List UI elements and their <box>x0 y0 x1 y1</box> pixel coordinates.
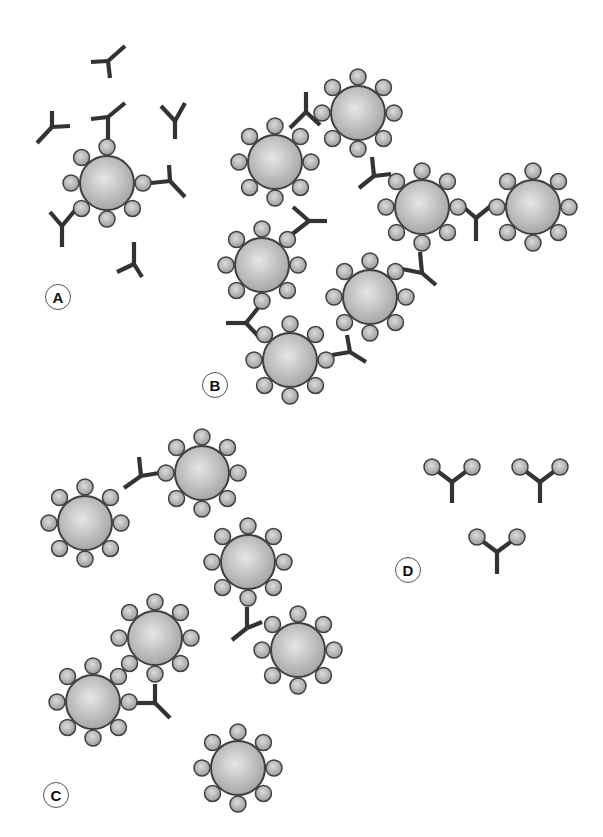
panel-label-b: B <box>202 372 228 398</box>
antigen-icon <box>254 642 270 658</box>
antigen-icon <box>326 642 342 658</box>
antigen-icon <box>265 579 281 595</box>
antigen-icon <box>183 630 199 646</box>
antigen-icon <box>525 163 541 179</box>
antigen-icon <box>307 377 323 393</box>
antigen-icon <box>60 719 76 735</box>
antigen-icon <box>169 490 185 506</box>
antigen-icon <box>350 69 366 85</box>
antigen-icon <box>205 785 221 801</box>
coated-particle-icon <box>314 69 402 157</box>
antigen-icon <box>135 175 151 191</box>
antibody-icon <box>37 111 70 143</box>
antigen-icon <box>290 257 306 273</box>
coated-particle-icon <box>111 594 199 682</box>
antigen-icon <box>230 724 246 740</box>
antibody-icon <box>91 103 125 139</box>
panel-c-particles <box>41 429 342 812</box>
antigen-icon <box>315 667 331 683</box>
antigen-icon <box>60 669 76 685</box>
antigen-icon <box>450 199 466 215</box>
antigen-icon <box>147 594 163 610</box>
antigen-icon <box>242 179 258 195</box>
particle-icon <box>66 675 120 729</box>
antigen-icon <box>424 459 440 475</box>
antigen-icon <box>219 440 235 456</box>
particle-icon <box>506 180 560 234</box>
antigen-icon <box>509 529 525 545</box>
antigen-icon <box>122 655 138 671</box>
antigen-icon <box>325 80 341 96</box>
antigen-icon <box>102 490 118 506</box>
antigen-icon <box>500 224 516 240</box>
panel-a-particles <box>63 139 151 227</box>
antigen-icon <box>41 515 57 531</box>
particle-icon <box>221 535 275 589</box>
panel-b-particles <box>218 69 577 404</box>
antigen-icon <box>292 179 308 195</box>
antigen-icon <box>218 257 234 273</box>
antigen-icon <box>279 232 295 248</box>
antibody-icon <box>117 242 142 277</box>
antigen-icon <box>389 174 405 190</box>
antigen-icon <box>362 325 378 341</box>
antigen-icon <box>172 655 188 671</box>
antigen-icon <box>85 730 101 746</box>
antigen-icon <box>512 459 528 475</box>
particle-icon <box>175 446 229 500</box>
antigen-icon <box>561 199 577 215</box>
antigen-icon <box>169 440 185 456</box>
particle-icon <box>235 238 289 292</box>
antigen-icon <box>290 606 306 622</box>
antigen-icon <box>205 735 221 751</box>
particle-icon <box>331 86 385 140</box>
antibody-icon <box>359 157 391 188</box>
antigen-icon <box>99 211 115 227</box>
antigen-icon <box>63 175 79 191</box>
antigen-icon <box>255 735 271 751</box>
antigen-icon <box>469 529 485 545</box>
antigen-icon <box>489 199 505 215</box>
coated-particle-icon <box>246 316 334 404</box>
antigen-icon <box>337 314 353 330</box>
antigen-icon <box>113 515 129 531</box>
particle-icon <box>263 333 317 387</box>
antigen-icon <box>267 190 283 206</box>
antigen-icon <box>102 540 118 556</box>
panel-d <box>432 467 560 574</box>
coated-particle-icon <box>41 479 129 567</box>
antibody-icon <box>50 209 76 247</box>
antigen-icon <box>215 579 231 595</box>
antigen-icon <box>552 459 568 475</box>
agglutination-diagram: A B C D <box>0 0 603 837</box>
antigen-icon <box>318 352 334 368</box>
bead-layer <box>41 69 577 812</box>
antigen-icon <box>337 264 353 280</box>
antigen-icon <box>375 80 391 96</box>
antigen-icon <box>387 264 403 280</box>
antigen-icon <box>282 388 298 404</box>
particle-icon <box>248 135 302 189</box>
antigen-icon <box>194 501 210 517</box>
antigen-icon <box>122 605 138 621</box>
free-antigen-layer <box>424 459 568 545</box>
antigen-icon <box>121 694 137 710</box>
antigen-icon <box>257 327 273 343</box>
antigen-icon <box>194 429 210 445</box>
coated-particle-icon <box>204 518 292 606</box>
antigen-icon <box>279 282 295 298</box>
antigen-icon <box>229 232 245 248</box>
antigen-icon <box>240 590 256 606</box>
antigen-icon <box>158 465 174 481</box>
antigen-icon <box>525 235 541 251</box>
antigen-icon <box>99 139 115 155</box>
antigen-icon <box>85 658 101 674</box>
antigen-icon <box>326 289 342 305</box>
antigen-icon <box>77 551 93 567</box>
antigen-icon <box>389 224 405 240</box>
particle-icon <box>58 496 112 550</box>
coated-particle-icon <box>231 118 319 206</box>
antibody-icon <box>232 607 262 640</box>
antigen-icon <box>219 490 235 506</box>
antibody-icon <box>402 252 436 285</box>
